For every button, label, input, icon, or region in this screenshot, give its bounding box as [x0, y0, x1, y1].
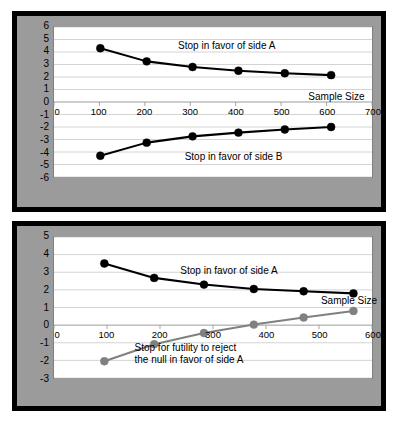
chart-panel-bottom: 543210-1-2-30100200300400500600 Stop in … — [12, 221, 386, 411]
series-annotation-1: Stop in favor of side B — [185, 151, 283, 163]
figure-sheet: 6543210-1-2-3-4-5-6010020030040050060070… — [0, 0, 398, 422]
chart-annotations-top: Stop in favor of side AStop in favor of … — [17, 16, 381, 207]
x-axis-title: Sample Size — [308, 91, 364, 102]
series-annotation-0: Stop in favor of side A — [178, 40, 275, 52]
chart-panel-top: 6543210-1-2-3-4-5-6010020030040050060070… — [12, 11, 386, 212]
series-annotation-0: Stop in favor of side A — [180, 265, 277, 277]
series-annotation-1: Stop for futility to reject the null in … — [135, 342, 244, 365]
x-axis-title: Sample Size — [321, 294, 377, 305]
chart-annotations-bottom: Stop in favor of side AStop for futility… — [17, 226, 381, 406]
